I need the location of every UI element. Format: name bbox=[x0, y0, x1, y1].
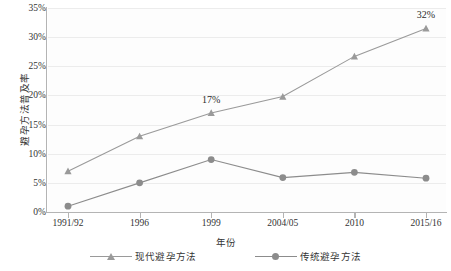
data-point-marker-triangle bbox=[351, 53, 358, 60]
y-axis-tickmark bbox=[41, 37, 47, 38]
y-axis-tickmark bbox=[41, 66, 47, 67]
y-axis-tickmark bbox=[41, 154, 47, 155]
data-point-marker-triangle bbox=[422, 25, 429, 32]
legend-marker-triangle-icon bbox=[107, 253, 115, 260]
y-axis-tickmark bbox=[41, 183, 47, 184]
chart-legend: 现代避孕方法传统避孕方法 bbox=[0, 249, 451, 263]
x-axis-title: 年份 bbox=[0, 235, 451, 249]
data-point-marker-circle bbox=[351, 169, 358, 176]
x-axis-tick-label: 1991/92 bbox=[52, 218, 83, 228]
x-axis-tick-label: 2004/05 bbox=[267, 218, 298, 228]
legend-label: 传统避孕方法 bbox=[300, 249, 362, 263]
legend-label: 现代避孕方法 bbox=[135, 249, 197, 263]
legend-key bbox=[255, 251, 297, 261]
y-axis-tickmark bbox=[41, 95, 47, 96]
x-axis-tick-labels: 1991/92199619992004/0520102015/16 bbox=[48, 218, 446, 234]
y-axis-tickmark bbox=[41, 8, 47, 9]
series-line bbox=[68, 28, 426, 171]
data-point-marker-circle bbox=[136, 179, 143, 186]
x-axis-tick-label: 2010 bbox=[345, 218, 364, 228]
data-point-marker-triangle bbox=[64, 168, 71, 175]
series-line bbox=[68, 160, 426, 207]
data-point-marker-circle bbox=[65, 203, 72, 210]
legend-marker-circle-icon bbox=[272, 253, 279, 260]
plot-area: 17%32% bbox=[48, 8, 446, 212]
data-point-marker-circle bbox=[423, 175, 430, 182]
contraceptive-prevalence-line-chart: 避孕方法普及率 0%5%10%15%20%25%30%35% 17%32% 19… bbox=[0, 0, 451, 271]
data-point-value-label: 17% bbox=[202, 94, 220, 105]
x-axis-tick-label: 2015/16 bbox=[410, 218, 441, 228]
data-point-marker-circle bbox=[208, 156, 215, 163]
legend-item[interactable]: 现代避孕方法 bbox=[90, 249, 197, 263]
data-point-marker-triangle bbox=[279, 93, 286, 100]
x-axis-tick-label: 1996 bbox=[130, 218, 149, 228]
legend-key bbox=[90, 251, 132, 261]
x-axis-tick-label: 1999 bbox=[202, 218, 221, 228]
data-point-marker-circle bbox=[279, 174, 286, 181]
y-axis-tickmark bbox=[41, 125, 47, 126]
series-plot bbox=[48, 8, 446, 212]
legend-item[interactable]: 传统避孕方法 bbox=[255, 249, 362, 263]
data-point-value-label: 32% bbox=[417, 9, 435, 20]
y-axis-tickmark bbox=[41, 212, 47, 213]
